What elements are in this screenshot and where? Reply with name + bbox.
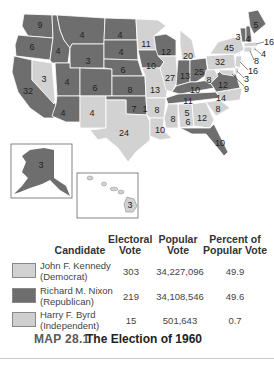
map-title: The Election of 1960 bbox=[86, 332, 202, 346]
svg-text:13: 13 bbox=[180, 71, 190, 81]
us-election-map-1960: 9 6 32 3 4 4 3 4 4 6 4 4 4 6 8 7 1 24 11… bbox=[0, 0, 274, 220]
state-ri bbox=[253, 47, 256, 51]
svg-text:7: 7 bbox=[131, 104, 136, 114]
svg-text:10: 10 bbox=[215, 138, 225, 148]
popular-vote: 501,643 bbox=[150, 315, 210, 326]
svg-text:12: 12 bbox=[197, 113, 207, 123]
svg-text:45: 45 bbox=[224, 43, 234, 53]
percent-vote: 0.7 bbox=[210, 315, 260, 326]
svg-text:11: 11 bbox=[141, 39, 150, 49]
candidate-name: Harry F. Byrd bbox=[40, 309, 99, 320]
electoral-vote: 303 bbox=[116, 266, 146, 277]
svg-text:4: 4 bbox=[118, 47, 123, 57]
svg-text:32: 32 bbox=[215, 57, 225, 67]
svg-text:20: 20 bbox=[183, 51, 193, 61]
svg-text:9: 9 bbox=[37, 20, 42, 30]
svg-text:8: 8 bbox=[154, 105, 159, 115]
svg-text:1: 1 bbox=[142, 104, 147, 114]
svg-text:4: 4 bbox=[79, 30, 84, 40]
header-electoral-vote: ElectoralVote bbox=[108, 234, 152, 256]
svg-text:25: 25 bbox=[194, 67, 204, 77]
svg-text:8: 8 bbox=[127, 85, 132, 95]
svg-text:3: 3 bbox=[41, 74, 46, 84]
electoral-vote: 15 bbox=[116, 315, 146, 326]
state-nj bbox=[235, 56, 242, 68]
svg-text:9: 9 bbox=[244, 84, 249, 94]
svg-text:10: 10 bbox=[146, 61, 156, 71]
header-percent-popular: Percent ofPopular Vote bbox=[202, 234, 268, 256]
state-az bbox=[52, 96, 80, 122]
map-caption: MAP 28.1 The Election of 1960 bbox=[0, 330, 274, 371]
candidate-party: (Republican) bbox=[40, 296, 113, 307]
svg-text:4: 4 bbox=[60, 108, 65, 118]
svg-text:8: 8 bbox=[215, 104, 220, 114]
percent-vote: 49.6 bbox=[210, 291, 260, 302]
svg-text:4: 4 bbox=[117, 30, 122, 40]
svg-text:13: 13 bbox=[150, 85, 160, 95]
legend-row-kennedy: John F. Kennedy (Democrat) 303 34,227,09… bbox=[0, 260, 274, 286]
svg-text:5: 5 bbox=[253, 20, 258, 30]
svg-text:3: 3 bbox=[85, 56, 90, 66]
header-popular-vote: PopularVote bbox=[152, 234, 204, 256]
svg-text:11: 11 bbox=[183, 96, 192, 106]
svg-text:3: 3 bbox=[38, 160, 43, 170]
svg-text:3: 3 bbox=[235, 32, 240, 42]
svg-text:14: 14 bbox=[216, 93, 226, 103]
hawaii-inset: 3 bbox=[77, 173, 138, 218]
svg-text:32: 32 bbox=[23, 86, 33, 96]
svg-text:3: 3 bbox=[127, 200, 132, 210]
popular-vote: 34,108,546 bbox=[150, 291, 210, 302]
svg-text:4: 4 bbox=[261, 49, 266, 59]
alaska-inset: 3 bbox=[11, 144, 72, 198]
svg-text:16: 16 bbox=[248, 66, 258, 76]
svg-text:27: 27 bbox=[165, 73, 175, 83]
popular-vote: 34,227,096 bbox=[150, 266, 210, 277]
electoral-vote: 219 bbox=[116, 291, 146, 302]
svg-text:10: 10 bbox=[155, 125, 165, 135]
svg-text:8: 8 bbox=[206, 75, 211, 85]
candidate-party: (Democrat) bbox=[40, 271, 111, 282]
swatch-democrat bbox=[12, 263, 36, 278]
candidate-name: Richard M. Nixon bbox=[40, 285, 113, 296]
svg-text:4: 4 bbox=[55, 46, 60, 56]
swatch-republican bbox=[12, 288, 36, 303]
svg-text:6: 6 bbox=[120, 65, 125, 75]
percent-vote: 49.9 bbox=[210, 266, 260, 277]
svg-text:6: 6 bbox=[92, 83, 97, 93]
svg-text:4: 4 bbox=[245, 34, 250, 44]
svg-text:10: 10 bbox=[190, 85, 200, 95]
svg-text:4: 4 bbox=[89, 108, 94, 118]
svg-text:12: 12 bbox=[218, 80, 228, 90]
legend-row-nixon: Richard M. Nixon (Republican) 219 34,108… bbox=[0, 285, 274, 311]
map-number: MAP 28.1 bbox=[34, 332, 90, 346]
svg-text:12: 12 bbox=[161, 47, 171, 57]
svg-text:6: 6 bbox=[29, 42, 34, 52]
state-ct bbox=[244, 47, 252, 52]
swatch-independent bbox=[12, 312, 36, 327]
svg-text:16: 16 bbox=[264, 37, 274, 47]
svg-text:3: 3 bbox=[244, 74, 249, 84]
svg-text:8: 8 bbox=[254, 56, 259, 66]
candidate-name: John F. Kennedy bbox=[40, 260, 111, 271]
svg-text:6: 6 bbox=[185, 117, 190, 127]
svg-text:8: 8 bbox=[170, 114, 175, 124]
svg-text:4: 4 bbox=[64, 77, 69, 87]
svg-text:24: 24 bbox=[119, 128, 129, 138]
